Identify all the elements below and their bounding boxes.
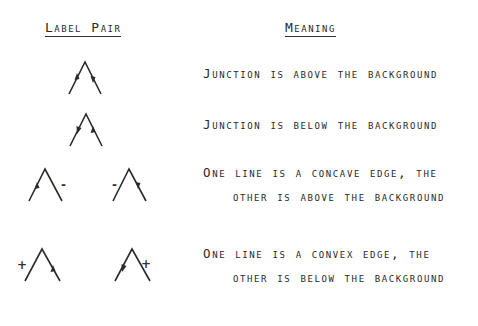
meaning-header: Meaning: [285, 20, 336, 37]
junction-arrow-plus-icon: [24, 247, 62, 283]
label-pair-header: Label Pair: [45, 20, 121, 37]
junction-arrows-icon: [69, 112, 103, 148]
junction-arrow-minus-icon: [28, 167, 64, 203]
meaning-line: Junction is above the background: [203, 66, 438, 81]
junction-arrow-minus-icon: [112, 167, 148, 203]
junction-arrows-icon: [68, 60, 102, 96]
row-3-meaning: One line is a concave edge, the other is…: [203, 165, 445, 205]
meaning-line-2: other is below the background: [203, 270, 445, 286]
meaning-line-1: One line is a concave edge, the: [203, 165, 437, 180]
plus-sign-icon: +: [17, 259, 27, 271]
meaning-line-2: other is above the background: [203, 189, 445, 205]
row-4-junction-glyph-a: [24, 247, 62, 283]
minus-sign-icon: -: [61, 179, 66, 191]
row-3-junction-glyph-b: [112, 167, 148, 203]
row-3-junction-glyph-a: [28, 167, 64, 203]
minus-sign-icon: -: [112, 179, 117, 191]
meaning-line-1: One line is a convex edge, the: [203, 246, 430, 261]
row-1-junction-glyph: [68, 60, 102, 96]
row-1-meaning: Junction is above the background: [203, 66, 438, 82]
row-4-meaning: One line is a convex edge, the other is …: [203, 246, 445, 286]
row-2-junction-glyph: [69, 112, 103, 148]
meaning-line: Junction is below the background: [203, 117, 438, 132]
plus-sign-icon: +: [141, 258, 151, 270]
row-2-meaning: Junction is below the background: [203, 117, 438, 133]
